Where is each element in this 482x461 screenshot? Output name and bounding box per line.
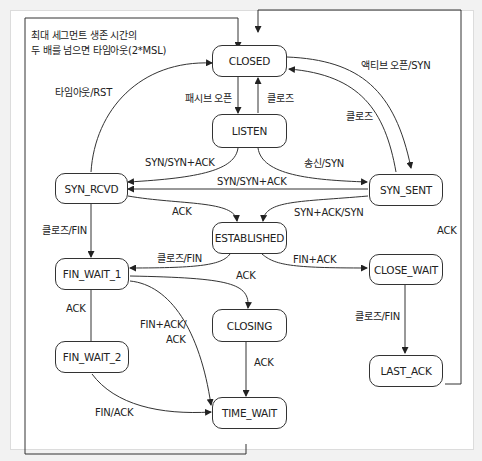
state-syn-rcvd: SYN_RCVD xyxy=(55,173,128,204)
label-fin-ack-slash: FIN+ACK/ xyxy=(140,318,187,331)
label-passive-open: 패시브 오픈 xyxy=(185,92,232,105)
label-close-wait-close-fin: 클로즈/FIN xyxy=(355,310,400,323)
label-fin-ack: FIN+ACK xyxy=(293,253,336,266)
label-fin-ack-fin-wait-2: FIN/ACK xyxy=(95,406,133,419)
label-syn-syn-ack-2: SYN/SYN+ACK xyxy=(217,175,287,188)
label-fin-wait-1-ack-closing: ACK xyxy=(236,269,256,282)
label-last-ack-ack: ACK xyxy=(437,224,457,237)
label-established-close-fin: 클로즈/FIN xyxy=(157,252,202,265)
label-syn-syn-ack-1: SYN/SYN+ACK xyxy=(145,156,215,169)
state-listen: LISTEN xyxy=(212,114,287,148)
label-fin-wait-1-ack: ACK xyxy=(66,302,86,315)
label-syn-sent-close: 클로즈 xyxy=(346,110,372,123)
label-closing-ack: ACK xyxy=(254,356,274,369)
state-close-wait: CLOSE_WAIT xyxy=(369,254,443,285)
label-syn-ack-syn: SYN+ACK/SYN xyxy=(294,206,364,219)
label-timeout-rst: 타임아웃/RST xyxy=(55,86,112,99)
state-closed: CLOSED xyxy=(212,45,287,77)
state-closing: CLOSING xyxy=(212,309,287,342)
label-syn-rcvd-close-fin: 클로즈/FIN xyxy=(42,224,87,237)
timeout-note-line2: 두 배를 넘으면 타임아웃(2*MSL) xyxy=(31,43,166,58)
state-fin-wait-1: FIN_WAIT_1 xyxy=(55,258,129,290)
label-active-open-syn: 액티브 오픈/SYN xyxy=(361,59,431,72)
timeout-note-line1: 최대 세그먼트 생존 시간의 xyxy=(31,28,166,43)
label-fin-ack-ack: ACK xyxy=(166,333,186,346)
state-last-ack: LAST_ACK xyxy=(369,355,443,387)
label-send-syn: 송신/SYN xyxy=(304,157,344,170)
state-fin-wait-2: FIN_WAIT_2 xyxy=(55,341,129,373)
label-syn-rcvd-ack: ACK xyxy=(172,205,192,218)
label-listen-close: 클로즈 xyxy=(267,92,293,105)
state-syn-sent: SYN_SENT xyxy=(369,174,443,206)
timeout-note: 최대 세그먼트 생존 시간의 두 배를 넘으면 타임아웃(2*MSL) xyxy=(31,28,166,58)
state-time-wait: TIME_WAIT xyxy=(212,397,287,429)
state-established: ESTABLISHED xyxy=(212,222,287,254)
